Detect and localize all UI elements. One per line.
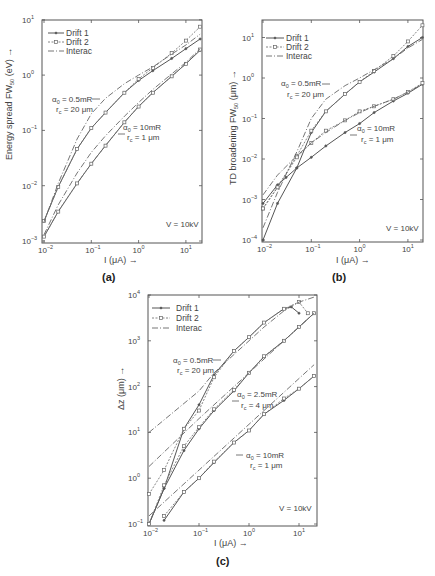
- series-line: [263, 83, 422, 208]
- svg-text:rc = 20 μm: rc = 20 μm: [177, 366, 214, 376]
- y-tick-label: 10−1: [128, 518, 143, 529]
- legend-interac-a: Interac: [66, 46, 93, 56]
- voltage-label-b: V = 10kV: [386, 224, 419, 233]
- series-line: [44, 50, 200, 236]
- svg-text:α0 = 10mR: α0 = 10mR: [246, 451, 284, 461]
- svg-text:α0 = 10mR: α0 = 10mR: [123, 123, 161, 133]
- svg-text:α0 = 0.5mR: α0 = 0.5mR: [52, 95, 93, 105]
- series-line: [149, 313, 314, 524]
- y-tick-label: 101: [242, 32, 254, 43]
- x-tick-label: 10−1: [85, 244, 100, 255]
- legend-a: Drift 1 Drift 2 Interac: [48, 28, 93, 56]
- x-tick-label: 10−2: [38, 244, 53, 255]
- series-line: [149, 313, 314, 524]
- x-tick-label: 10−1: [305, 243, 320, 254]
- data-series-c: [148, 297, 316, 525]
- svg-text:α0 = 10mR: α0 = 10mR: [357, 124, 395, 134]
- x-tick-label: 10−1: [193, 527, 208, 538]
- y-tick-label: 103: [128, 335, 140, 346]
- svg-text:α0 = 0.5mR: α0 = 0.5mR: [173, 356, 214, 366]
- annotation-10mR-b: α0 = 10mR rc = 1 μm: [350, 124, 395, 145]
- legend-interac-c: Interac: [176, 323, 203, 333]
- svg-text:rc = 20 μm: rc = 20 μm: [56, 105, 93, 115]
- axis-ticks-a: 10−210−110010110−310−210−1100101: [22, 14, 202, 255]
- axis-ticks-c: 10−210−110010110−1100101102103104: [128, 289, 317, 538]
- legend-drift2-c: Drift 2: [176, 313, 199, 323]
- series-line: [44, 50, 200, 237]
- annotation-10mR-c: α0 = 10mR rc = 1 μm: [236, 451, 284, 471]
- series-line: [44, 49, 200, 235]
- y-tick-label: 102: [128, 381, 140, 392]
- y-tick-label: 10−3: [22, 235, 37, 246]
- series-line: [149, 307, 299, 524]
- y-tick-label: 100: [22, 69, 34, 80]
- legend-b: Drift 1 Drift 2 Interac: [266, 33, 313, 61]
- x-tick-label: 101: [180, 244, 192, 255]
- legend-drift1-c: Drift 1: [176, 303, 199, 313]
- series-line: [149, 313, 314, 466]
- annotation-05mR-a: α0 = 0.5mR rc = 20 μm: [52, 95, 100, 115]
- y-tick-label: 10−4: [242, 234, 257, 245]
- svg-text:rc = 1 μm: rc = 1 μm: [250, 461, 283, 471]
- voltage-label-a: V = 10kV: [166, 220, 199, 229]
- x-tick-label: 10−2: [143, 527, 158, 538]
- y-tick-label: 100: [242, 72, 254, 83]
- series-line: [263, 38, 422, 241]
- panel-label-b: (b): [332, 271, 346, 283]
- y-axis-label-c: Δz (μm) →: [116, 367, 126, 410]
- x-tick-label: 100: [354, 243, 366, 254]
- x-tick-label: 10−2: [257, 243, 272, 254]
- x-axis-label-c: I (μA) →: [214, 538, 248, 548]
- axis-ticks-b: 10−210−110010110−410−310−210−1100101: [242, 20, 423, 254]
- x-tick-label: 101: [402, 243, 414, 254]
- svg-text:α0 = 2.5mR: α0 = 2.5mR: [237, 390, 278, 400]
- y-tick-label: 10−3: [242, 194, 257, 205]
- x-tick-label: 100: [243, 527, 255, 538]
- y-tick-label: 101: [22, 14, 34, 25]
- svg-text:rc = 1 μm: rc = 1 μm: [127, 133, 160, 143]
- annotation-10mR-a: α0 = 10mR rc = 1 μm: [118, 123, 161, 143]
- legend-interac-b: Interac: [286, 51, 313, 61]
- panel-label-a: (a): [102, 271, 116, 283]
- y-tick-label: 100: [128, 472, 140, 483]
- x-axis-label-a: I (μA) →: [104, 255, 138, 265]
- legend-c: Drift 1 Drift 2 Interac: [152, 303, 203, 333]
- annotation-25mR-c: α0 = 2.5mR rc = 4 μm: [232, 390, 278, 411]
- annotation-05mR-c: α0 = 0.5mR rc = 20 μm: [173, 356, 221, 376]
- y-tick-label: 101: [128, 426, 140, 437]
- x-tick-label: 100: [133, 244, 145, 255]
- plot-frame-c: [148, 295, 317, 526]
- annotation-05mR-b: α0 = 0.5mR rc = 20 μm: [281, 79, 330, 100]
- x-tick-label: 101: [293, 527, 305, 538]
- y-tick-label: 10−1: [22, 124, 37, 135]
- y-tick-label: 10−1: [242, 113, 257, 124]
- figure-canvas: 10−210−110010110−310−210−1100101 Drift 1…: [0, 0, 435, 576]
- chart-panel-c: 10−210−110010110−1100101102103104 Drift …: [116, 289, 317, 567]
- svg-text:rc = 20 μm: rc = 20 μm: [287, 90, 324, 100]
- svg-text:rc = 1 μm: rc = 1 μm: [361, 135, 394, 145]
- voltage-label-c: V = 10kV: [279, 504, 312, 513]
- y-tick-label: 10−2: [22, 180, 37, 191]
- x-axis-label-b: I (μA) →: [336, 255, 370, 265]
- y-tick-label: 104: [128, 289, 140, 300]
- chart-panel-b: 10−210−110010110−410−310−210−1100101 Dri…: [228, 20, 424, 283]
- chart-panel-a: 10−210−110010110−310−210−1100101 Drift 1…: [4, 14, 202, 283]
- y-tick-label: 10−2: [242, 153, 257, 164]
- series-line: [149, 365, 314, 516]
- panel-label-c: (c): [216, 555, 230, 567]
- svg-text:rc = 4 μm: rc = 4 μm: [241, 401, 274, 411]
- y-axis-label-b: TD broadening FW50 (μm) →: [228, 70, 239, 185]
- svg-text:α0 = 0.5mR: α0 = 0.5mR: [281, 79, 322, 89]
- y-axis-label-a: Energy spread FW50 (eV) →: [4, 48, 15, 160]
